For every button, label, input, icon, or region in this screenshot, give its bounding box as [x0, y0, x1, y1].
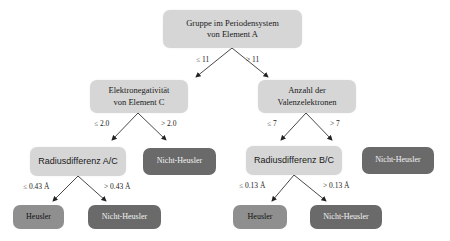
node-radius-diff-bc: Radiusdifferenz B/C [246, 146, 342, 175]
edge-label-root-left: ≤ 11 [196, 55, 209, 64]
node-valence-electrons: Anzahl der Valenzelektronen [258, 80, 356, 113]
edge-label-ac-right: > 0.43 Å [104, 182, 131, 191]
root-node-periodic-group: Gruppe im Periodensystem von Element A [163, 10, 302, 48]
edge-label-ve-left: ≤ 7 [267, 119, 277, 128]
leaf-nicht-heusler-en: Nicht-Heusler [143, 148, 216, 175]
radius-bc-label: Radiusdifferenz B/C [254, 154, 334, 166]
root-label-line1: Gruppe im Periodensystem [186, 18, 279, 29]
leaf-heusler-ac: Heusler [13, 205, 64, 229]
root-label-line2: von Element A [207, 29, 258, 40]
edge-label-ac-left: ≤ 0.43 Å [23, 182, 49, 191]
radius-ac-label: Radiusdifferenz A/C [38, 155, 117, 167]
edge-label-en-left: ≤ 2.0 [94, 119, 109, 128]
leaf-label: Heusler [26, 212, 51, 223]
edge-label-en-right: > 2.0 [161, 119, 176, 128]
leaf-label: Nicht-Heusler [102, 212, 147, 223]
leaf-label: Nicht-Heusler [375, 155, 420, 166]
electronegativity-line1: Elektronegativität [109, 85, 170, 96]
leaf-nicht-heusler-ve: Nicht-Heusler [362, 147, 434, 174]
leaf-label: Nicht-Heusler [323, 212, 368, 223]
edge-label-bc-left: ≤ 0.13 Å [239, 181, 265, 190]
leaf-nicht-heusler-bc: Nicht-Heusler [310, 205, 382, 229]
node-radius-diff-ac: Radiusdifferenz A/C [30, 147, 126, 176]
leaf-label: Nicht-Heusler [157, 156, 202, 167]
edge-label-root-right: > 11 [246, 55, 259, 64]
node-electronegativity: Elektronegativität von Element C [90, 80, 188, 113]
leaf-nicht-heusler-ac: Nicht-Heusler [88, 205, 161, 229]
electronegativity-line2: von Element C [114, 97, 165, 108]
valence-line2: Valenzelektronen [278, 97, 337, 108]
valence-line1: Anzahl der [288, 85, 326, 96]
edge-label-bc-right: > 0.13 Å [323, 181, 350, 190]
edge-label-ve-right: > 7 [330, 119, 340, 128]
leaf-label: Heusler [248, 212, 273, 223]
leaf-heusler-bc: Heusler [233, 205, 287, 229]
